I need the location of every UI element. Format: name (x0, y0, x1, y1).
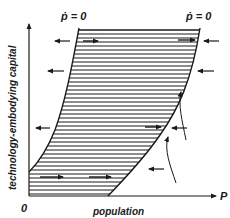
right-isocline-label: ṗ = 0 (185, 10, 212, 22)
hatched-growth-region (29, 28, 209, 196)
left-isocline-label: ṗ = 0 (60, 10, 87, 22)
x-axis-symbol: P (220, 190, 228, 202)
origin-label: 0 (21, 202, 28, 214)
y-axis-label: technology-embodying capital (7, 45, 18, 190)
phase-diagram: ṗ = 0 ṗ = 0 0 population P technology-em… (0, 0, 230, 218)
trajectory-lower (167, 137, 176, 183)
x-axis-label: population (92, 206, 144, 217)
